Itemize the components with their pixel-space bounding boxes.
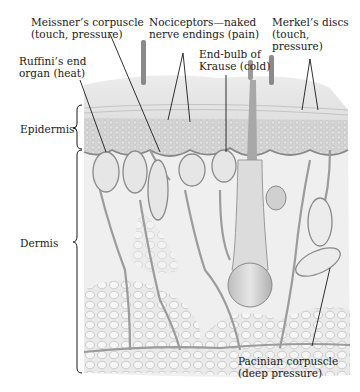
epidermis-layer <box>84 75 348 156</box>
label-pacinian-corpuscle: Pacinian corpuscle (deep pressure) <box>238 355 338 379</box>
label-epidermis: Epidermis <box>20 123 74 135</box>
label-nociceptors: Nociceptors—naked nerve endings (pain) <box>149 16 259 40</box>
label-dermis: Dermis <box>20 237 58 249</box>
label-meissners-corpuscle: Meissner’s corpuscle (touch, pressure) <box>31 16 144 40</box>
label-end-bulb-of-krause: End-bulb of Krause (cold) <box>199 48 270 72</box>
label-ruffinis-end-organ: Ruffini’s end organ (heat) <box>19 55 86 79</box>
label-merkels-discs: Merkel’s discs (touch, pressure) <box>272 16 349 52</box>
layer-braces <box>73 105 82 373</box>
